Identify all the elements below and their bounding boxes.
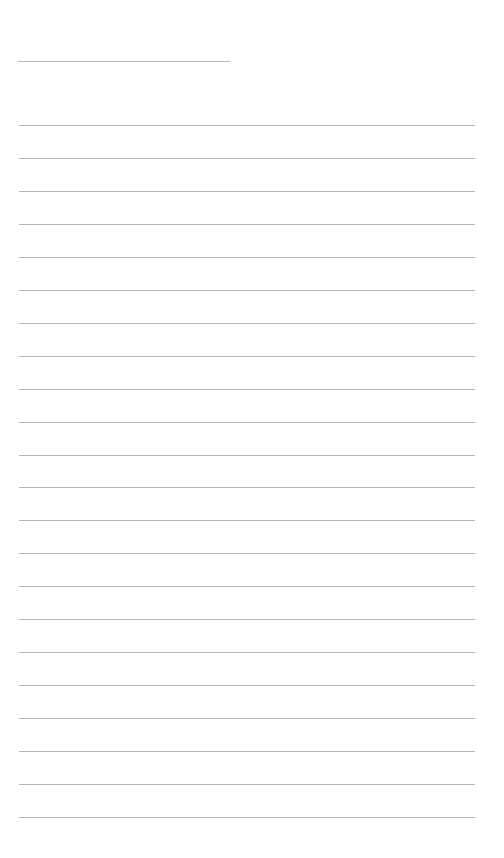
ruled-line <box>19 487 475 488</box>
ruled-line <box>19 356 475 357</box>
ruled-line <box>19 619 475 620</box>
ruled-line <box>19 191 475 192</box>
ruled-line <box>19 817 475 818</box>
ruled-line <box>19 323 475 324</box>
ruled-line <box>19 290 475 291</box>
header-name-line <box>18 61 230 62</box>
ruled-line <box>19 422 475 423</box>
ruled-line <box>19 784 475 785</box>
ruled-line <box>19 718 475 719</box>
ruled-line <box>19 257 475 258</box>
lined-paper-page <box>0 0 504 858</box>
ruled-line <box>19 685 475 686</box>
ruled-line <box>19 224 475 225</box>
ruled-line <box>19 553 475 554</box>
ruled-line <box>19 586 475 587</box>
ruled-line <box>19 158 475 159</box>
ruled-line <box>19 520 475 521</box>
ruled-line <box>19 389 475 390</box>
ruled-line <box>19 455 475 456</box>
ruled-line <box>19 125 475 126</box>
ruled-line <box>19 652 475 653</box>
ruled-line <box>19 751 475 752</box>
